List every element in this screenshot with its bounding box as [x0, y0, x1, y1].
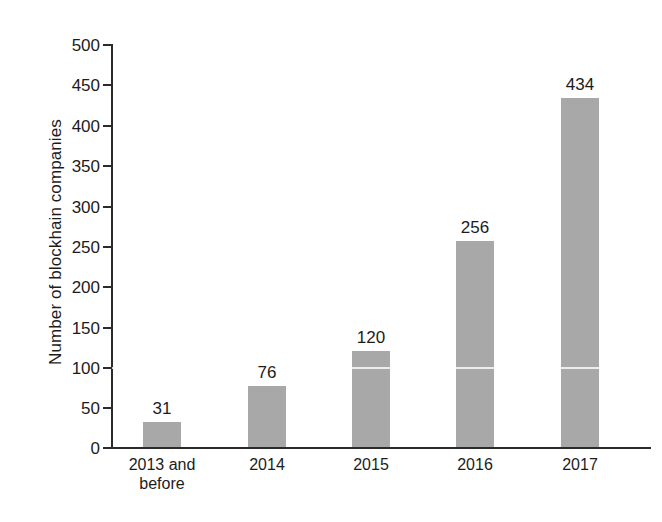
- y-tick-mark-200: [103, 286, 112, 288]
- y-tick-mark-250: [103, 246, 112, 248]
- bar-value-2015: 120: [326, 329, 416, 346]
- x-tick-label-2017: 2017: [520, 455, 640, 474]
- x-tick-label-2016: 2016: [415, 455, 535, 474]
- bar-value-2017: 434: [535, 76, 625, 93]
- x-tick-label-2013-and-before: 2013 and before: [102, 455, 222, 493]
- y-tick-label-250: 250: [40, 239, 100, 256]
- y-tick-mark-300: [103, 206, 112, 208]
- y-tick-mark-50: [103, 407, 112, 409]
- bar-2015: [352, 351, 390, 447]
- plot-area: [112, 45, 650, 447]
- y-tick-label-150: 150: [40, 320, 100, 337]
- x-tick-label-2015: 2015: [311, 455, 431, 474]
- y-tick-mark-450: [103, 84, 112, 86]
- y-tick-label-400: 400: [40, 118, 100, 135]
- bar-chart-figure: Number of blockhain companies 500 450 40…: [0, 0, 662, 522]
- x-tick-label-2013-line1: 2013 and: [102, 455, 222, 474]
- y-tick-label-300: 300: [40, 199, 100, 216]
- x-tick-label-2014: 2014: [207, 455, 327, 474]
- y-tick-mark-500: [103, 44, 112, 46]
- y-tick-label-500: 500: [40, 37, 100, 54]
- bar-2013-and-before: [143, 422, 181, 447]
- bar-value-2014: 76: [222, 364, 312, 381]
- y-tick-mark-400: [103, 125, 112, 127]
- bar-2016: [456, 241, 494, 447]
- bar-value-2013-and-before: 31: [117, 400, 207, 417]
- y-tick-mark-350: [103, 165, 112, 167]
- bar-2014: [248, 386, 286, 447]
- y-tick-label-450: 450: [40, 77, 100, 94]
- x-axis-line: [111, 447, 651, 449]
- y-tick-mark-100: [103, 367, 112, 369]
- y-tick-mark-150: [103, 327, 112, 329]
- x-tick-label-2013-line2: before: [102, 474, 222, 493]
- y-tick-label-200: 200: [40, 279, 100, 296]
- y-tick-label-350: 350: [40, 158, 100, 175]
- bar-value-2016: 256: [430, 219, 520, 236]
- bar-2017: [561, 98, 599, 447]
- y-tick-label-100: 100: [40, 360, 100, 377]
- y-tick-label-50: 50: [40, 400, 100, 417]
- y-tick-label-0: 0: [40, 440, 100, 457]
- y-tick-mark-0: [103, 447, 112, 449]
